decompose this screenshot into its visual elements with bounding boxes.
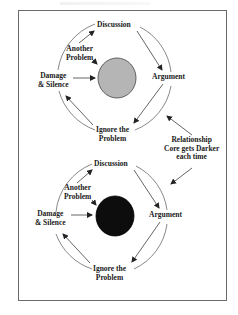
arrow-another-problem (93, 60, 97, 64)
label-line: Problem (93, 274, 126, 283)
label-line: Problem (66, 54, 93, 63)
arrow-to-damage (63, 234, 90, 263)
label-argument: Argument (152, 73, 185, 82)
relationship-core-dark (96, 196, 134, 236)
annotation-arrow-up (167, 116, 192, 135)
arrow-to-discussion (77, 170, 92, 183)
ring-arc (59, 91, 95, 130)
label-line: & Silence (35, 219, 66, 228)
annotation-arrow-down (171, 168, 192, 184)
arrow-to-damage (66, 96, 93, 125)
arrow-to-ignore (132, 222, 160, 262)
relationship-core-light (98, 58, 136, 98)
label-damage-silence: Damage & Silence (35, 210, 66, 227)
label-line: each time (164, 153, 219, 162)
arrow-to-argument (137, 31, 162, 70)
label-another-problem: Another Problem (64, 184, 91, 201)
arrow-to-argument (134, 170, 159, 208)
arrow-to-ignore (134, 84, 163, 123)
annotation-core-darker: Relationship Core gets Darker each time (164, 136, 219, 162)
arrow-to-discussion (79, 31, 94, 43)
ring-arc (56, 234, 92, 269)
label-argument: Argument (149, 211, 182, 220)
ring-arc (140, 27, 171, 72)
label-discussion: Discussion (94, 160, 128, 169)
ring-arc (135, 86, 171, 130)
label-discussion: Discussion (97, 21, 131, 30)
ring-arc (134, 224, 167, 269)
label-another-problem: Another Problem (66, 45, 93, 62)
label-line: & Silence (38, 81, 69, 90)
label-ignore-problem: Ignore the Problem (93, 265, 126, 282)
ring-arc (136, 166, 167, 210)
label-line: Problem (96, 135, 129, 144)
label-damage-silence: Damage & Silence (38, 72, 69, 89)
arrow-another-problem (92, 200, 96, 205)
label-line: Problem (64, 193, 91, 202)
label-ignore-problem: Ignore the Problem (96, 126, 129, 143)
